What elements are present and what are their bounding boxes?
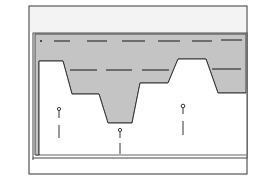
profile-diagram	[0, 0, 256, 177]
upper-dashed-dot	[40, 40, 42, 42]
top-band	[30, 7, 246, 32]
